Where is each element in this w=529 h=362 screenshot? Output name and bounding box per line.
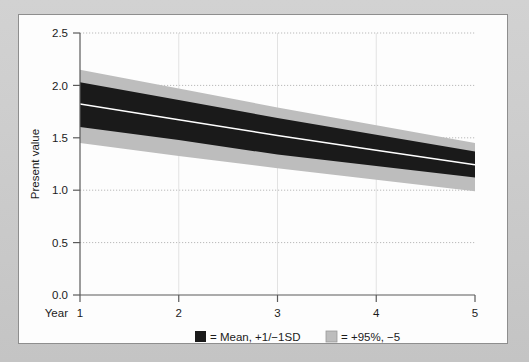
ytick-label-1-0: 1.0 <box>52 184 68 196</box>
plot-area-wrapper: 2.5 2.0 1.5 1.0 0.5 0.0 1 2 3 4 5 Year P… <box>19 15 509 345</box>
legend-label-mean-sd: = Mean, +1/−1SD <box>210 331 300 343</box>
xtick-label-4: 4 <box>373 307 380 319</box>
ytick-label-1-5: 1.5 <box>52 132 68 144</box>
ytick-label-2-0: 2.0 <box>52 80 68 92</box>
xtick-label-5: 5 <box>472 307 478 319</box>
y-axis-ticks <box>73 33 80 295</box>
xtick-label-1: 1 <box>77 307 83 319</box>
figure-page: 2.5 2.0 1.5 1.0 0.5 0.0 1 2 3 4 5 Year P… <box>0 0 529 362</box>
chart-svg: 2.5 2.0 1.5 1.0 0.5 0.0 1 2 3 4 5 Year P… <box>19 15 509 345</box>
x-axis-ticks <box>80 295 475 302</box>
chart-legend: = Mean, +1/−1SD = +95%, −5 <box>195 331 400 343</box>
figure-panel: 2.5 2.0 1.5 1.0 0.5 0.0 1 2 3 4 5 Year P… <box>18 14 508 344</box>
ytick-label-0-0: 0.0 <box>52 289 68 301</box>
xtick-label-3: 3 <box>274 307 280 319</box>
ytick-label-2-5: 2.5 <box>52 27 68 39</box>
xtick-label-2: 2 <box>176 307 182 319</box>
ytick-label-0-5: 0.5 <box>52 237 68 249</box>
legend-label-95-percent: = +95%, −5 <box>341 331 400 343</box>
x-axis-title: Year <box>45 307 68 319</box>
y-axis-title: Present value <box>29 129 41 199</box>
legend-swatch-95-percent <box>326 331 337 342</box>
legend-swatch-mean-sd <box>195 331 206 342</box>
